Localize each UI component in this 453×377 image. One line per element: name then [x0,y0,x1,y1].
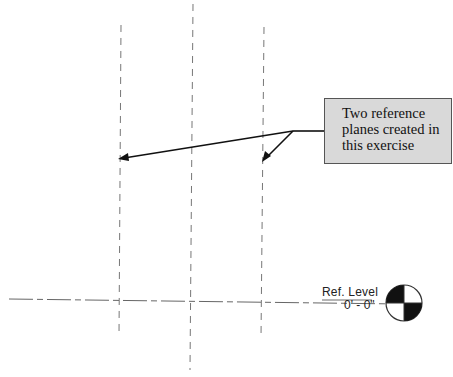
level-elevation[interactable]: 0' - 0" [344,298,375,312]
reference-plane-center[interactable] [190,4,193,370]
reference-plane-left[interactable] [119,25,121,336]
drawing-canvas [0,0,453,377]
callout-line-2: planes created in [342,121,443,137]
level-head-icon[interactable] [386,285,422,321]
arrowhead-right-icon [262,151,271,162]
callout-line-3: this exercise [342,137,443,153]
callout-line-1: Two reference [342,105,443,121]
callout-leader [124,131,324,158]
level-name[interactable]: Ref. Level [322,285,378,299]
callout-note: Two reference planes created in this exe… [324,98,452,164]
reference-plane-right[interactable] [261,27,264,338]
